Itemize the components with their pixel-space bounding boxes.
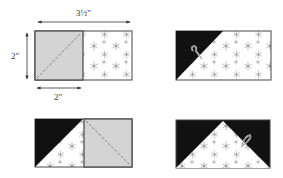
height-label: 2"	[11, 51, 20, 61]
width-label: 3½"	[76, 8, 91, 18]
step-3	[35, 119, 132, 167]
step-1: 3½" 2" 2"	[11, 8, 132, 102]
square-label: 2"	[54, 92, 63, 102]
diagram-canvas: 3½" 2" 2"	[0, 0, 283, 178]
step-4	[176, 120, 270, 168]
step-2	[176, 31, 271, 80]
